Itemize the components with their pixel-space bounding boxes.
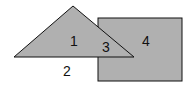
- overlap-diagram: 1 3 4 2: [0, 0, 189, 90]
- region-label-4: 4: [142, 33, 150, 49]
- region-label-2: 2: [63, 63, 71, 79]
- region-label-3: 3: [102, 39, 110, 55]
- region-label-1: 1: [70, 33, 78, 49]
